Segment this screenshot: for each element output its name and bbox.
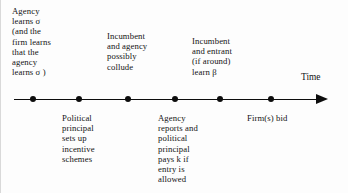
event-annotation-below-2: Political principal sets up incentive sc… <box>62 113 95 164</box>
timeline-arrowhead-icon <box>316 94 328 104</box>
timeline-event-dot-5 <box>217 96 223 102</box>
timeline-event-dot-3 <box>125 96 131 102</box>
timeline-event-dot-4 <box>172 96 178 102</box>
event-annotation-below-4: Agency reports and political principal p… <box>158 113 198 184</box>
event-annotation-above-5: Incumbent and entrant (if around) learn … <box>192 36 232 77</box>
event-annotation-above-3: Incumbent and agency possibly collude <box>107 31 147 72</box>
axis-title-time: Time <box>301 72 320 83</box>
timeline-diagram: Agency learns σ (and the firm learns tha… <box>0 0 348 193</box>
timeline-event-dot-6 <box>268 96 274 102</box>
timeline-event-dot-2 <box>76 96 82 102</box>
event-annotation-above-1: Agency learns σ (and the firm learns tha… <box>12 6 51 77</box>
event-annotation-below-6: Firm(s) bid <box>247 113 287 123</box>
timeline-event-dot-1 <box>30 96 36 102</box>
page-edge-artifact <box>0 0 1 193</box>
